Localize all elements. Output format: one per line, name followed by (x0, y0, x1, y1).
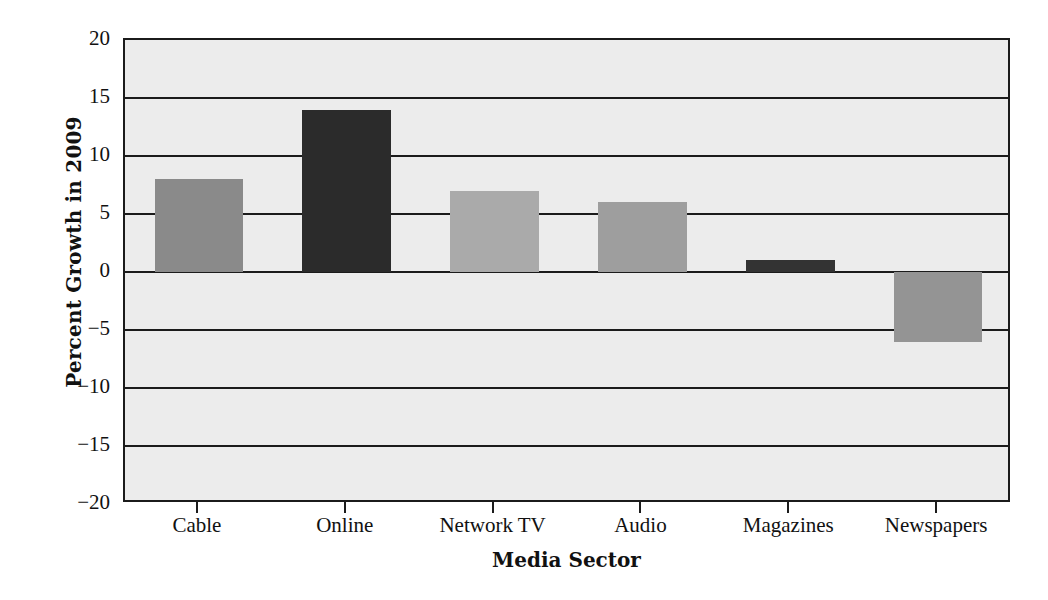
x-axis-tick-label: Online (316, 513, 373, 538)
gridline (125, 445, 1008, 447)
bar-chart: Percent Growth in 2009 20151050−5−10−15−… (0, 0, 1048, 600)
x-axis-tick-mark (935, 502, 937, 513)
gridline (125, 213, 1008, 215)
y-axis-tick-label: 15 (48, 84, 110, 109)
y-axis-tick-label: −5 (48, 316, 110, 341)
y-axis-tick-label: 10 (48, 142, 110, 167)
gridline (125, 97, 1008, 99)
bar-audio (598, 202, 687, 272)
y-axis-tick-label: 20 (48, 26, 110, 51)
y-axis-tick-label: 5 (48, 200, 110, 225)
gridline (125, 387, 1008, 389)
gridline (125, 271, 1008, 273)
x-axis-tick-label: Magazines (743, 513, 834, 538)
x-axis-tick-mark (787, 502, 789, 513)
x-axis-tick-label: Audio (614, 513, 667, 538)
gridline (125, 329, 1008, 331)
y-axis-tick-label: 0 (48, 258, 110, 283)
x-axis-title: Media Sector (123, 548, 1010, 572)
plot-area (123, 38, 1010, 502)
bar-magazines (746, 260, 835, 272)
x-axis-tick-label: Newspapers (885, 513, 988, 538)
bar-newspapers (894, 272, 983, 342)
x-axis-tick-label: Network TV (439, 513, 545, 538)
y-axis-tick-label: −10 (48, 374, 110, 399)
y-axis-title: Percent Growth in 2009 (62, 82, 86, 422)
bar-online (302, 110, 391, 272)
x-axis-tick-mark (344, 502, 346, 513)
bar-cable (155, 179, 244, 272)
x-axis-tick-mark (196, 502, 198, 513)
x-axis-tick-label: Cable (172, 513, 221, 538)
bar-network-tv (450, 191, 539, 272)
gridline (125, 155, 1008, 157)
x-axis-tick-mark (639, 502, 641, 513)
y-axis-tick-label: −15 (48, 432, 110, 457)
y-axis-tick-label: −20 (48, 490, 110, 515)
x-axis-tick-mark (492, 502, 494, 513)
